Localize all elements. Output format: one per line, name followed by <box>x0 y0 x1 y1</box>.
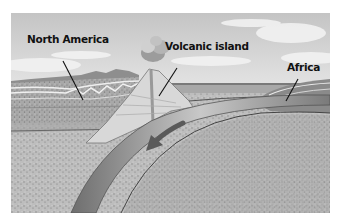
label-volcanic-island: Volcanic island <box>165 40 249 52</box>
label-africa: Africa <box>287 61 320 73</box>
tectonic-diagram: North America Volcanic island Africa <box>11 13 330 213</box>
label-north-america: North America <box>27 33 109 45</box>
